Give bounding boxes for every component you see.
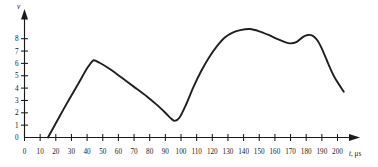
x-tick-label: 170	[285, 148, 296, 156]
x-tick-label: 40	[84, 148, 92, 156]
x-tick-labels: 0102030405060708090100110120130140150160…	[23, 148, 344, 156]
x-tick-label: 60	[115, 148, 123, 156]
x-tick-label: 150	[254, 148, 265, 156]
velocity-time-plot: 012345678 v 0102030405060708090100110120…	[0, 0, 378, 167]
y-tick-label: 7	[15, 48, 19, 56]
x-tick-label: 30	[68, 148, 76, 156]
x-tick-label: 50	[99, 148, 107, 156]
y-axis-arrow-icon	[21, 9, 28, 20]
x-tick-label: 70	[130, 148, 138, 156]
x-tick-label: 140	[238, 148, 249, 156]
velocity-curve	[48, 29, 344, 137]
x-tick-label: 180	[301, 148, 312, 156]
y-tick-label: 5	[15, 72, 19, 80]
y-axis-title: v	[17, 3, 21, 11]
x-tick-label: 200	[332, 148, 343, 156]
y-tick-label: 2	[15, 109, 19, 117]
x-axis-arrow-icon	[349, 134, 360, 141]
x-tick-label: 20	[52, 148, 60, 156]
data-series-group	[48, 29, 344, 137]
x-tick-label: 100	[176, 148, 187, 156]
x-tick-marks	[25, 134, 338, 141]
x-axis-title: t, μs	[349, 150, 361, 158]
y-tick-label: 3	[15, 97, 19, 105]
x-tick-label: 120	[207, 148, 218, 156]
x-tick-label: 0	[23, 148, 27, 156]
y-axis-group: 012345678 v	[15, 3, 28, 142]
y-tick-label: 4	[15, 85, 19, 93]
x-tick-label: 80	[146, 148, 154, 156]
x-tick-label: 10	[37, 148, 45, 156]
y-tick-labels: 012345678	[15, 35, 19, 142]
x-tick-label: 190	[316, 148, 327, 156]
x-tick-label: 110	[191, 148, 202, 156]
y-tick-label: 6	[15, 60, 19, 68]
y-tick-label: 1	[15, 122, 19, 130]
x-tick-label: 160	[270, 148, 281, 156]
x-axis-title-unit: , μs	[351, 150, 361, 158]
x-tick-label: 130	[223, 148, 234, 156]
y-tick-label: 0	[15, 134, 19, 142]
x-tick-label: 90	[162, 148, 170, 156]
chart-figure: 012345678 v 0102030405060708090100110120…	[0, 0, 378, 167]
x-axis-group: 0102030405060708090100110120130140150160…	[23, 134, 362, 158]
y-tick-label: 8	[15, 35, 19, 43]
